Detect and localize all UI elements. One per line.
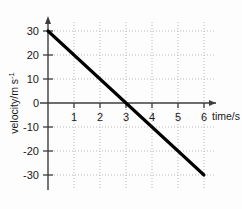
x-axis-ticks bbox=[74, 103, 204, 108]
x-axis-title: time/s bbox=[212, 110, 240, 122]
y-axis-title-text: velocity/m s bbox=[8, 79, 20, 134]
vertical-gridlines bbox=[74, 22, 204, 188]
y-tick-label-minus-10: -10 bbox=[23, 121, 39, 133]
y-tick-label-30: 30 bbox=[27, 25, 39, 37]
y-tick-label-10: 10 bbox=[27, 73, 39, 85]
x-tick-label-3: 3 bbox=[123, 111, 129, 123]
y-axis-title-exponent: -1 bbox=[7, 72, 16, 79]
chart-canvas: 1 2 3 4 5 6 30 20 10 0 -10 -20 -30 veloc… bbox=[0, 0, 242, 209]
velocity-time-graph-figure: 1 2 3 4 5 6 30 20 10 0 -10 -20 -30 veloc… bbox=[0, 0, 242, 209]
y-axis-arrow-icon bbox=[45, 16, 51, 24]
x-axis-arrow-icon bbox=[209, 100, 216, 106]
y-tick-label-minus-30: -30 bbox=[23, 169, 39, 181]
x-tick-label-1: 1 bbox=[71, 111, 77, 123]
x-tick-label-5: 5 bbox=[175, 111, 181, 123]
y-tick-label-minus-20: -20 bbox=[23, 145, 39, 157]
x-tick-label-2: 2 bbox=[97, 111, 103, 123]
y-axis-title: velocity/m s-1 bbox=[7, 72, 20, 134]
svg-text:velocity/m s-1: velocity/m s-1 bbox=[7, 72, 20, 134]
y-axis-tick-labels: 30 20 10 0 -10 -20 -30 bbox=[23, 25, 39, 181]
x-tick-label-4: 4 bbox=[149, 111, 155, 123]
x-tick-label-6: 6 bbox=[201, 111, 207, 123]
y-tick-label-20: 20 bbox=[27, 49, 39, 61]
y-tick-label-0: 0 bbox=[33, 97, 39, 109]
